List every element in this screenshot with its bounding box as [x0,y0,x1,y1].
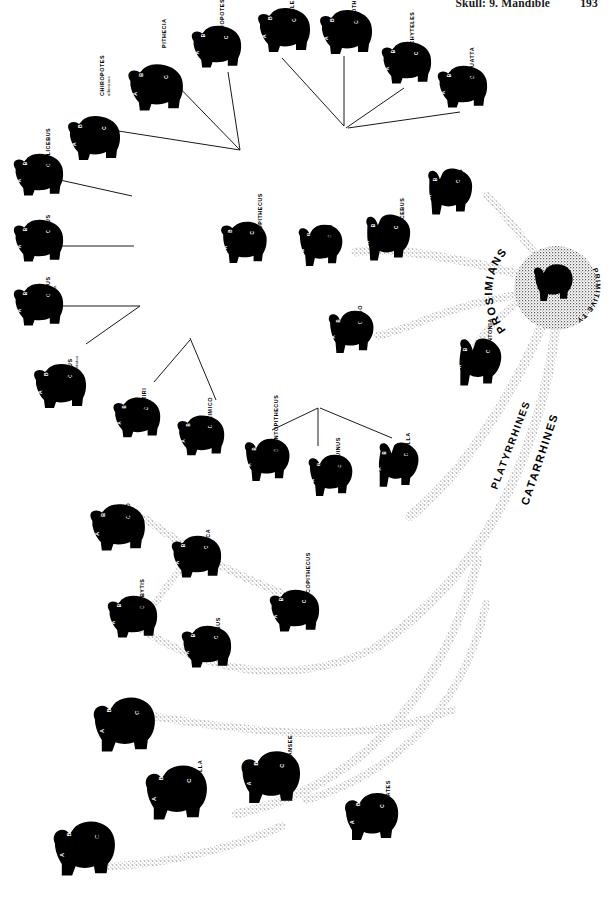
skull-icon: ABC [108,596,157,638]
taxon-ateles: ABCATELES [258,0,310,52]
skull-marker-a: A [365,240,370,244]
taxon-label: CALLIMICO [207,397,213,432]
skull-icon: ABC [68,116,120,160]
taxon-label: GORILLA [197,760,203,788]
skull-icon: ABC [90,504,145,550]
taxon-label: CHIROPOTES [99,55,105,96]
taxon-brachyteles: ABCBRACHYTELES [382,12,431,84]
taxon-cebus-apella: ABCCEBUSapella [14,276,63,325]
skull-marker-a: A [17,308,22,312]
skull-silhouette [14,220,63,262]
skull-silhouette [299,225,343,266]
skull-marker-a: A [349,820,355,824]
taxon-label: CERCOPITHECUS [305,552,311,606]
taxon-alouatta: ABCALOUATTA [438,47,487,108]
skull-icon: ABC [14,154,63,196]
taxon-chimpansee: ABCCHIMPANSEE [242,735,301,803]
taxon-label: GALAGO [357,305,363,332]
skull-marker-a: A [151,797,157,801]
skull-marker-b: B [371,223,376,227]
skull-silhouette [182,626,231,668]
taxon-saguinus: ABCSAGUINUS [309,437,353,496]
skull-silhouette [177,416,224,456]
taxon-label: COLOBUS [215,617,221,648]
skull-marker-b: B [138,73,144,77]
skull-marker-b: B [158,776,164,780]
taxon-gorilla: ABCGORILLA [146,760,207,820]
taxon-label: MACACA [205,529,211,556]
taxon-label: LEONTOPITHECUS [273,395,279,452]
taxon-cebus-nigrivittatus: ABCCEBUSnigrivittatus [34,356,86,408]
skull-marker-a: A [457,364,462,368]
taxon-label: AOTUS [45,214,51,236]
taxon-leontopithecus: ABCLEONTOPITHECUS [245,395,290,481]
skull-marker-b: B [43,372,49,376]
taxon-hylobates: ABCHYLOBATES [345,780,398,840]
skull-marker-a: A [195,50,200,54]
taxon-species-label: nigrivittatus [74,356,79,380]
taxon-species-label: apella [52,285,57,298]
connector-alouatta [348,112,460,128]
skull-marker-b: B [329,18,335,22]
primate-phylogeny-diagram: PRIMITIVE TYPE PROSIMIANS PLATYRRHINES C… [0,0,612,905]
skull-silhouette [128,64,183,110]
skull-marker-c: C [163,75,169,79]
taxon-chiropotes-albinasus: ABCCHIROPOTESalbinasus [68,55,120,160]
skull-silhouette [329,311,374,353]
skull-marker-b: B [100,513,106,517]
skull-marker-a: A [94,532,100,536]
taxon-label: DAUBENTONIA [487,318,493,364]
taxa-layer: ABCCHIROPOTESalbinasusABCPITHECIAABCCHIR… [14,0,502,876]
skull-marker-b: B [316,463,321,466]
taxon-label: BRACHYTELES [409,12,415,58]
skull-marker-b: B [463,347,468,351]
skull-icon: ABC [14,220,63,262]
taxon-pongo: ABCPONGO [94,697,155,751]
skull-marker-a: A [175,560,180,564]
skull-marker-a: A [273,614,278,618]
taxon-label: CHIMPANSEE [287,735,293,776]
skull-icon: ABC [382,42,431,84]
taxon-saimiri: ABCSAIMIRI [113,388,160,437]
band-cercopithecoid [134,624,378,671]
taxon-label: PAPIO [125,503,131,522]
connector-cebus-nigrivittatus [86,306,140,344]
taxon-label: ALOUATTA [469,47,475,80]
skull-silhouette [309,455,353,496]
skull-silhouette [54,821,115,875]
skull-icon: ABC [94,697,155,751]
skull-silhouette [428,169,472,215]
skull-icon: ABC [329,311,374,353]
connector-saimiri [154,340,190,382]
taxon-label: CEBUS [67,358,73,380]
taxon-label: CEBUS [45,276,51,298]
taxon-label: LEMUR [327,224,333,246]
figure-page: Skull: 9. Mandible193 [0,0,612,905]
taxon-label: PROPITHECUS [257,193,263,238]
skull-marker-b: B [253,762,259,766]
skull-marker-a: A [111,620,116,624]
connector-cebuella [320,408,392,438]
skull-marker-a: A [427,194,432,198]
skull-silhouette [460,339,502,386]
skull-marker-a: A [385,66,390,70]
taxon-tarsius: ABCTARSIUS [427,169,472,215]
skull-icon: ABC [113,398,160,438]
taxon-label: MICROCEBUS [399,198,405,240]
taxon-label: PITHECIA [161,18,167,48]
skull-silhouette [113,398,160,438]
skull-marker-c: C [186,779,192,783]
skull-icon: ABC [427,169,472,215]
taxon-homo: ABCHOMO [54,821,115,875]
skull-icon: ABC [245,439,290,481]
skull-icon: ABC [182,626,231,668]
skull-icon: ABC [177,416,224,456]
skull-icon: ABC [309,455,353,496]
taxon-label: LAGOTHRIX [351,0,357,26]
skull-icon: ABC [320,10,372,54]
skull-marker-b: B [306,233,311,236]
skull-silhouette [192,26,241,68]
skull-silhouette [90,504,145,550]
skull-silhouette [379,442,419,486]
skull-marker-b: B [106,708,112,712]
